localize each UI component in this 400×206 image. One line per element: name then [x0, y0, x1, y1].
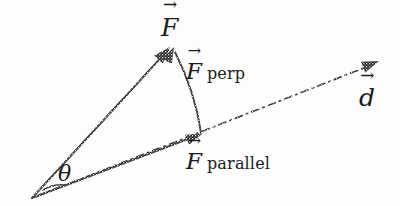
force-parallel-letter: F — [186, 148, 202, 174]
force-perp-letter: F — [186, 58, 202, 84]
force-letter: F — [161, 13, 178, 42]
vector-arrow-icon: → — [188, 133, 201, 149]
force-perp-label: →Fperp — [186, 52, 245, 83]
force-perp-symbol: →F — [186, 52, 202, 83]
force-vector-line — [32, 50, 168, 198]
force-parallel-subscript: parallel — [207, 154, 270, 173]
angle-label: θ — [58, 163, 71, 185]
force-decomposition-diagram: →F →Fperp →Fparallel →d θ — [0, 0, 400, 206]
vector-arrow-icon: → — [163, 0, 177, 13]
displacement-label: →d — [359, 76, 375, 110]
force-parallel-symbol: →F — [186, 142, 202, 173]
displacement-symbol: →d — [359, 76, 375, 110]
displacement-line — [32, 64, 374, 198]
force-label: →F — [161, 6, 178, 40]
force-perp-subscript: perp — [207, 64, 245, 83]
vector-arrow-icon: → — [188, 43, 201, 59]
force-parallel-label: →Fparallel — [186, 142, 270, 173]
displacement-letter: d — [359, 83, 375, 112]
vector-arrow-icon: → — [360, 67, 374, 84]
force-symbol: →F — [161, 6, 178, 40]
